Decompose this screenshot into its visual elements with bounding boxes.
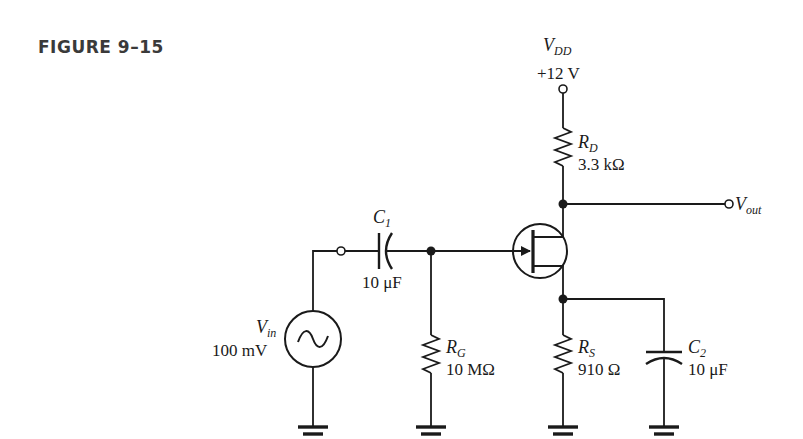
vin-subscript: in <box>267 326 276 340</box>
rg-symbol: R <box>445 337 457 357</box>
c2-label: C2 10 μF <box>688 337 728 379</box>
ground-icon <box>548 427 578 434</box>
vout-subscript: out <box>746 203 762 217</box>
ground-icon <box>649 427 679 434</box>
vdd-terminal <box>559 85 567 93</box>
rd-symbol: R <box>577 132 589 152</box>
svg-text:RS: RS <box>577 337 595 360</box>
rg-label: RG 10 MΩ <box>445 337 495 379</box>
ground-icon <box>416 427 446 434</box>
rg-value: 10 MΩ <box>446 360 495 379</box>
c1-label: C1 10 μF <box>362 207 402 292</box>
svg-text:RG: RG <box>445 337 466 360</box>
rs-subscript: S <box>589 346 595 360</box>
svg-text:Vin: Vin <box>256 317 276 340</box>
svg-text:RD: RD <box>577 132 598 155</box>
vin-label: Vin 100 mV <box>212 317 276 360</box>
c1-value: 10 μF <box>362 273 402 292</box>
svg-text:VDD: VDD <box>543 35 572 58</box>
jfet-icon <box>431 204 567 299</box>
rs-label: RS 910 Ω <box>577 337 620 379</box>
rs-resistor-icon <box>555 335 571 373</box>
svg-text:C2: C2 <box>688 337 706 360</box>
c2-value: 10 μF <box>688 360 728 379</box>
rs-value: 910 Ω <box>578 360 620 379</box>
vdd-value: +12 V <box>537 64 581 83</box>
vout-label: Vout <box>735 194 762 217</box>
svg-text:C1: C1 <box>373 207 391 230</box>
ground-icon <box>298 427 328 434</box>
vdd-subscript: DD <box>553 44 572 58</box>
rg-subscript: G <box>457 346 466 360</box>
rg-resistor-icon <box>423 335 439 373</box>
c1-subscript: 1 <box>385 216 391 230</box>
input-terminal <box>337 247 345 255</box>
ac-source-icon <box>285 311 341 367</box>
circuit-schematic: VDD +12 V RD 3.3 kΩ Vout C1 10 μF RG <box>0 0 803 439</box>
vin-value: 100 mV <box>212 341 268 360</box>
c2-subscript: 2 <box>700 346 706 360</box>
vdd-label: VDD +12 V <box>537 35 581 83</box>
vout-terminal <box>725 200 733 208</box>
rs-symbol: R <box>577 337 589 357</box>
rd-subscript: D <box>588 141 598 155</box>
rd-label: RD 3.3 kΩ <box>577 132 625 174</box>
rd-resistor-icon <box>555 128 571 166</box>
rd-value: 3.3 kΩ <box>578 155 625 174</box>
